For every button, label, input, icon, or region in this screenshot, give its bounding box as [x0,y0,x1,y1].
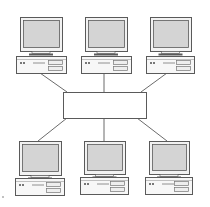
monitor-stand-neck [96,175,114,177]
drive-bay-icon [175,182,189,186]
drive-bay-icon [177,61,191,65]
drive-bay-icon [47,183,61,187]
link-pc-bottom-right [137,118,167,141]
link-pc-top-right [141,73,167,92]
monitor-stand-neck [32,52,50,54]
hdd-led-icon [22,184,24,186]
power-led-icon [85,62,87,64]
monitor-screen [23,145,59,172]
monitor-stand-neck [31,176,49,178]
desktop-case-icon [146,178,193,195]
drive-bay-icon [49,67,63,71]
star-network-diagram [0,0,210,207]
power-led-icon [150,62,152,64]
monitor-stand-foot [94,54,118,56]
link-pc-bottom-left [38,118,67,141]
drive-bay-icon [177,67,191,71]
power-led-icon [84,183,86,185]
pc-top-left [17,18,67,74]
desktop-case-icon [16,179,65,196]
desktop-case-icon [81,178,129,195]
pc-bottom-left [16,142,65,196]
drive-bay-icon [114,67,128,71]
drive-bay-icon [111,182,125,186]
hdd-led-icon [152,183,154,185]
drive-bay-icon [175,188,189,192]
pc-bottom-center [81,142,129,195]
monitor-screen [24,21,60,48]
monitor-stand-neck [162,52,180,54]
monitor-stand-neck [160,175,178,177]
pc-top-right [147,18,195,74]
central-hub-box [64,93,147,119]
drive-bay-icon [49,61,63,65]
pc-bottom-right [146,142,193,195]
drive-bay-icon [114,61,128,65]
monitor-stand-foot [159,54,183,56]
power-led-icon [19,184,21,186]
monitor-screen [154,21,189,48]
power-led-icon [149,183,151,185]
hdd-led-icon [87,183,89,185]
monitor-stand-foot [29,54,53,56]
hdd-led-icon [153,62,155,64]
monitor-screen [88,145,123,171]
desktop-case-icon [82,57,132,74]
hdd-led-icon [88,62,90,64]
pc-top-center [82,18,132,74]
power-led-icon [20,62,22,64]
desktop-case-icon [17,57,67,74]
drive-bay-icon [47,189,61,193]
monitor-screen [89,21,125,48]
drive-bay-icon [111,188,125,192]
hdd-led-icon [23,62,25,64]
monitor-screen [153,145,187,171]
desktop-case-icon [147,57,195,74]
stray-dot-mark [2,196,3,197]
link-pc-top-left [40,73,67,92]
monitor-stand-neck [97,52,115,54]
